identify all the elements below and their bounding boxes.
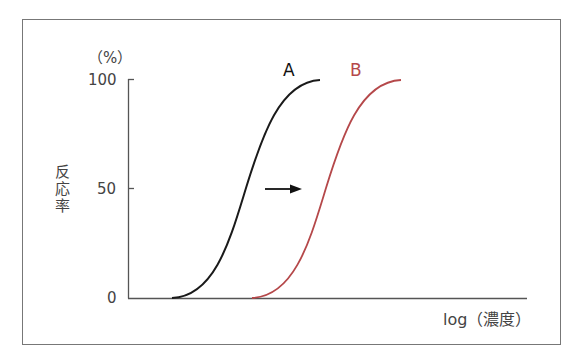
y-axis-title: 反 応 率 — [54, 164, 70, 215]
y-tick-label-100: 100 — [88, 71, 117, 89]
series-label-b: B — [350, 60, 362, 80]
chart-plot — [0, 0, 576, 358]
y-unit-label: （%） — [88, 46, 132, 67]
y-tick-label-0: 0 — [107, 289, 117, 307]
x-axis-title: log（濃度） — [443, 306, 531, 330]
arrow-head-icon — [290, 185, 302, 194]
y-tick-label-50: 50 — [97, 180, 116, 198]
y-axis-title-char: 応 — [54, 181, 70, 198]
y-axis-title-char: 率 — [54, 198, 70, 215]
series-label-a: A — [283, 60, 295, 80]
y-axis-title-char: 反 — [54, 164, 70, 181]
